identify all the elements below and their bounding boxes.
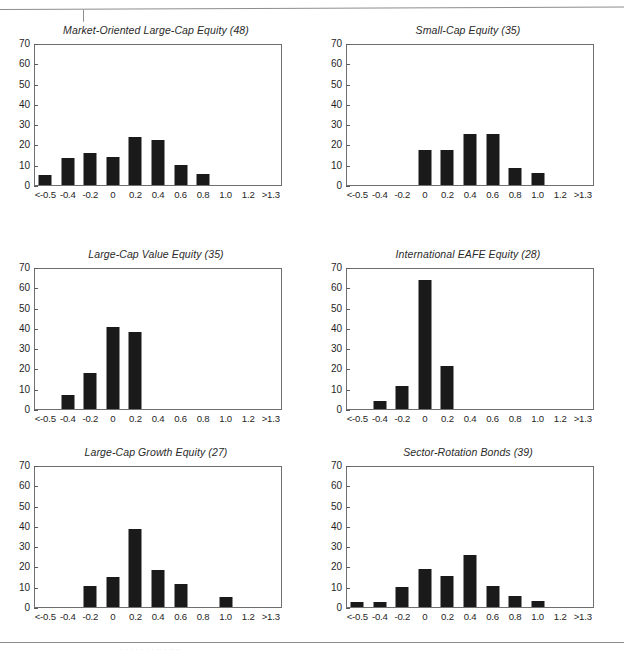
- x-axis-tick-label: 0.4: [152, 608, 165, 622]
- y-axis-tick: 30: [315, 119, 346, 131]
- y-axis-tick-label: 50: [331, 304, 346, 314]
- y-axis-tick: 10: [3, 582, 34, 594]
- bar: [373, 401, 386, 409]
- x-axis-tick: <-0.5: [347, 410, 368, 424]
- y-axis-tick: 20: [3, 139, 34, 151]
- y-axis-tick: 10: [315, 160, 346, 172]
- y-axis-tick-label: 40: [331, 100, 346, 110]
- x-axis-tick: 0.4: [464, 186, 477, 200]
- x-axis-tick: 0.6: [486, 608, 499, 622]
- x-axis-tick: 1.2: [242, 608, 255, 622]
- y-axis-tick-label: 0: [24, 603, 34, 613]
- x-axis-tick: >1.3: [262, 608, 280, 622]
- page-rule-top: [0, 7, 624, 10]
- x-axis-tick: >1.3: [574, 186, 592, 200]
- histogram-panel: International EAFE Equity (28)0102030405…: [312, 240, 624, 438]
- bar: [152, 140, 165, 185]
- bar: [418, 569, 431, 607]
- y-axis-tick-label: 60: [331, 283, 346, 293]
- x-axis-tick: 0.2: [129, 186, 142, 200]
- x-axis-tick: -0.2: [394, 186, 410, 200]
- x-axis-tick: -0.4: [372, 186, 388, 200]
- y-axis-tick-label: 40: [19, 324, 34, 334]
- bar-series: [35, 467, 281, 607]
- bar: [129, 137, 142, 185]
- x-axis-tick: 0: [422, 410, 427, 424]
- x-axis-tick: 0.8: [509, 186, 522, 200]
- x-axis-tick: >1.3: [262, 186, 280, 200]
- bar-series: [35, 269, 281, 409]
- x-axis-tick-label: -0.4: [372, 410, 388, 424]
- y-axis: 010203040506070: [3, 268, 34, 410]
- y-axis-tick-label: 30: [19, 344, 34, 354]
- x-axis-tick: 0.6: [486, 186, 499, 200]
- y-axis-tick-label: 20: [19, 364, 34, 374]
- y-axis-tick-label: 30: [331, 344, 346, 354]
- y-axis-tick-label: 70: [331, 461, 346, 471]
- x-axis-tick-label: -0.4: [60, 410, 76, 424]
- y-axis-tick-label: 70: [19, 461, 34, 471]
- x-axis-tick: -0.4: [60, 608, 76, 622]
- y-axis-tick-label: 20: [19, 562, 34, 572]
- x-axis-tick-label: 0.6: [486, 410, 499, 424]
- y-axis-tick: 20: [3, 561, 34, 573]
- x-axis-tick-label: 0.2: [441, 410, 454, 424]
- bar: [509, 596, 522, 607]
- x-axis-tick-label: -0.2: [82, 186, 98, 200]
- x-axis-tick-label: >1.3: [262, 410, 280, 424]
- x-axis-tick-label: 1.0: [531, 186, 544, 200]
- y-axis-tick: 30: [315, 541, 346, 553]
- y-axis-tick: 50: [315, 501, 346, 513]
- x-axis-tick-label: 0.2: [441, 608, 454, 622]
- x-axis-tick-label: 1.2: [554, 410, 567, 424]
- y-axis-tick: 60: [3, 58, 34, 70]
- y-axis-tick-label: 70: [19, 263, 34, 273]
- x-axis-tick-label: 0: [110, 186, 115, 200]
- y-axis-tick-label: 50: [331, 80, 346, 90]
- y-axis-tick-label: 0: [336, 603, 346, 613]
- panel-title: International EAFE Equity (28): [312, 248, 624, 260]
- x-axis-tick-label: 0.6: [174, 410, 187, 424]
- x-axis-tick-label: -0.4: [372, 186, 388, 200]
- panel-title: Market-Oriented Large-Cap Equity (48): [0, 24, 312, 36]
- x-axis-tick: >1.3: [574, 410, 592, 424]
- y-axis-tick-label: 60: [19, 59, 34, 69]
- x-axis-tick-label: 0.8: [197, 608, 210, 622]
- y-axis-tick: 50: [3, 79, 34, 91]
- y-axis-tick: 70: [3, 38, 34, 50]
- y-axis-tick-label: 60: [331, 59, 346, 69]
- bar: [531, 173, 544, 185]
- y-axis-tick-label: 10: [331, 583, 346, 593]
- y-axis-tick: 60: [315, 282, 346, 294]
- y-axis-tick-label: 0: [336, 181, 346, 191]
- y-axis-tick: 60: [3, 282, 34, 294]
- x-axis-tick: 0: [422, 608, 427, 622]
- y-axis-tick: 70: [3, 460, 34, 472]
- y-axis-tick: 20: [315, 363, 346, 375]
- x-axis-tick-label: 0.8: [509, 186, 522, 200]
- histogram-panel: Large-Cap Growth Equity (27)010203040506…: [0, 438, 312, 638]
- x-axis-tick: 0: [422, 186, 427, 200]
- page-caption-bleed: · · · · · · · ·· · ····: [120, 645, 540, 654]
- x-axis-tick: 1.2: [242, 186, 255, 200]
- x-axis-tick-label: 1.0: [531, 608, 544, 622]
- x-axis-tick-label: -0.2: [82, 608, 98, 622]
- x-axis-tick: 1.0: [219, 410, 232, 424]
- bar-series: [347, 467, 593, 607]
- y-axis-tick-label: 0: [336, 405, 346, 415]
- x-axis-tick: 1.0: [531, 608, 544, 622]
- y-axis-tick: 50: [315, 79, 346, 91]
- x-axis-tick: 1.0: [219, 608, 232, 622]
- panel-title: Sector-Rotation Bonds (39): [312, 446, 624, 458]
- y-axis-tick: 40: [315, 99, 346, 111]
- x-axis-tick-label: 0: [422, 186, 427, 200]
- y-axis: 010203040506070: [3, 44, 34, 186]
- histogram-panel: Large-Cap Value Equity (35)0102030405060…: [0, 240, 312, 438]
- x-axis-tick: <-0.5: [35, 410, 56, 424]
- x-axis-tick-label: 1.2: [242, 608, 255, 622]
- bar-series: [347, 269, 593, 409]
- x-axis-tick: 1.2: [554, 608, 567, 622]
- bar: [197, 174, 210, 185]
- bar: [509, 168, 522, 185]
- y-axis-tick: 70: [3, 262, 34, 274]
